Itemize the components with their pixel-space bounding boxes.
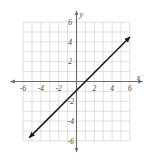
y-tick-label: 2 <box>68 57 72 66</box>
x-tick-label: -2 <box>56 84 62 93</box>
y-tick-label: 4 <box>68 38 72 47</box>
coordinate-plane-svg: y x -6 -4 -2 2 4 6 6 4 2 -2 -4 -6 <box>0 0 151 161</box>
x-axis-label: x <box>136 73 141 82</box>
graph-figure: y x -6 -4 -2 2 4 6 6 4 2 -2 -4 -6 <box>0 0 151 161</box>
x-tick-label: 6 <box>128 84 132 93</box>
x-tick-label: 2 <box>92 84 96 93</box>
x-tick-label: -6 <box>20 84 26 93</box>
x-tick-label: 4 <box>110 84 114 93</box>
y-tick-label: 6 <box>68 18 72 27</box>
x-tick-label: -4 <box>38 84 44 93</box>
y-tick-label: -6 <box>68 137 74 146</box>
y-axis-label: y <box>79 10 84 19</box>
y-tick-label: -4 <box>68 117 74 126</box>
